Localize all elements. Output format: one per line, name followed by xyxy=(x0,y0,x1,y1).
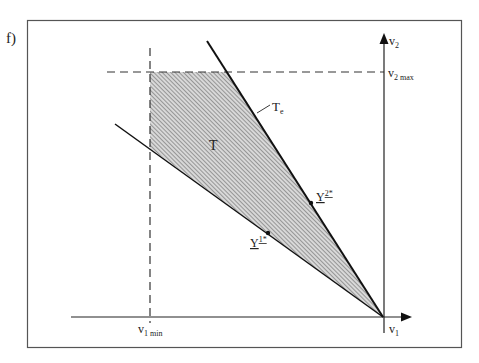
v1-axis-arrow-icon xyxy=(401,313,412,322)
v1-min-label: v1 min xyxy=(138,322,162,338)
diagram-canvas: v2 v2 max v1 v1 min T Te Y1* Y2* xyxy=(0,0,479,363)
panel-label: f) xyxy=(6,30,16,47)
te-leader-line xyxy=(257,105,270,113)
point-y1-label: Y1* xyxy=(250,235,267,250)
efficient-frontier-label: Te xyxy=(272,99,284,116)
v2-axis-label: v2 xyxy=(389,34,399,50)
feasible-region-t xyxy=(150,72,383,317)
v1-axis-label: v1 xyxy=(389,322,399,338)
region-t-label: T xyxy=(209,138,218,153)
feasible-set-diagram: f) v2 v2 max v1 v1 m xyxy=(0,0,479,363)
v2-axis-arrow-icon xyxy=(380,33,389,44)
v2-max-label: v2 max xyxy=(388,66,414,82)
point-y2-icon xyxy=(309,201,313,205)
point-y2-label: Y2* xyxy=(316,189,333,204)
